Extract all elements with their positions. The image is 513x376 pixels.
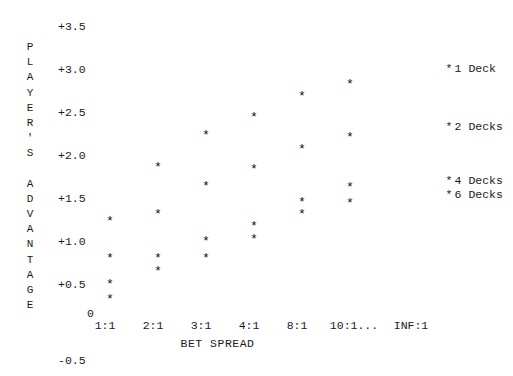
data-point-marker: * <box>153 163 163 173</box>
data-point-marker: * <box>249 165 259 175</box>
legend-marker-icon: * <box>446 188 455 201</box>
data-point-marker: * <box>249 113 259 123</box>
data-point-marker: * <box>105 217 115 227</box>
data-point-marker: * <box>201 182 211 192</box>
data-point-marker: * <box>201 237 211 247</box>
data-point-marker: * <box>201 131 211 141</box>
data-point-marker: * <box>345 199 355 209</box>
data-point-marker: * <box>153 210 163 220</box>
data-point-marker: * <box>105 280 115 290</box>
legend-label: 6 Decks <box>455 188 503 201</box>
legend-marker-icon: * <box>446 120 455 133</box>
data-point-marker: * <box>297 92 307 102</box>
data-point-marker: * <box>105 254 115 264</box>
scatter-chart: PLAYER'S ADVANTAGE +3.5 +3.0 +2.5 +2.0 +… <box>0 0 513 376</box>
data-point-marker: * <box>297 210 307 220</box>
data-point-marker: * <box>345 133 355 143</box>
data-point-marker: * <box>297 145 307 155</box>
data-point-marker: * <box>249 235 259 245</box>
legend-entry-1-deck: *1 Deck <box>418 49 496 88</box>
data-point-marker: * <box>153 267 163 277</box>
data-point-marker: * <box>345 80 355 90</box>
legend-label: 1 Deck <box>455 62 496 75</box>
data-point-marker: * <box>345 183 355 193</box>
data-point-marker: * <box>105 295 115 305</box>
legend-label: 2 Decks <box>455 120 503 133</box>
data-point-marker: * <box>249 222 259 232</box>
data-point-marker: * <box>153 254 163 264</box>
legend-marker-icon: * <box>446 62 455 75</box>
legend-entry-6-decks: *6 Decks <box>418 175 503 214</box>
data-point-marker: * <box>201 254 211 264</box>
legend-entry-2-decks: *2 Decks <box>418 107 503 146</box>
